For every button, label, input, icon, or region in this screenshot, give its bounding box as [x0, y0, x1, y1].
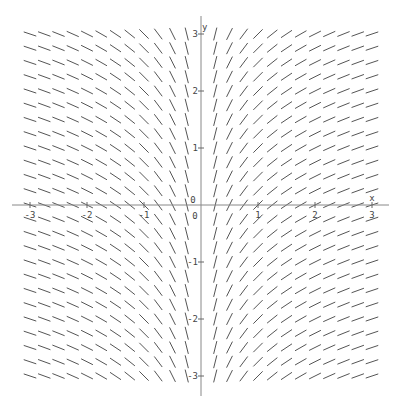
slope-segment — [140, 286, 149, 295]
slope-segment — [96, 373, 107, 379]
slope-segment — [324, 88, 335, 93]
slope-segment — [240, 86, 247, 96]
slope-segment — [366, 75, 378, 79]
slope-segment — [125, 87, 135, 95]
slope-segment — [227, 43, 233, 54]
slope-segment — [81, 31, 92, 37]
slope-segment — [67, 131, 78, 136]
slope-segment — [53, 131, 65, 136]
slope-segment — [96, 259, 107, 265]
slope-segment — [240, 314, 247, 324]
slope-segment — [38, 189, 50, 193]
slope-segment — [281, 73, 291, 80]
slope-segment — [110, 301, 120, 308]
slope-segment — [352, 345, 364, 349]
slope-segment — [81, 60, 92, 66]
slope-segment — [366, 360, 378, 364]
slope-segment — [170, 100, 176, 111]
slope-segment — [267, 158, 277, 166]
slope-segment — [140, 186, 149, 195]
slope-segment — [125, 258, 135, 266]
slope-segment — [254, 315, 263, 324]
slope-segment — [24, 331, 36, 335]
slope-segment — [352, 174, 364, 178]
slope-segment — [38, 217, 50, 221]
slope-segment — [352, 117, 364, 121]
slope-segment — [338, 302, 350, 307]
slope-segment — [295, 273, 306, 279]
slope-segment — [96, 116, 107, 122]
slope-segment — [170, 356, 176, 367]
slope-segment — [338, 345, 350, 350]
slope-segment — [338, 60, 350, 65]
slope-segment — [214, 42, 217, 54]
slope-segment — [214, 341, 217, 353]
slope-segment — [267, 329, 277, 337]
slope-segment — [366, 346, 378, 350]
slope-segment — [185, 71, 188, 83]
slope-segment — [338, 188, 350, 193]
slope-segment — [240, 172, 247, 182]
slope-segment — [254, 300, 263, 309]
slope-segment — [309, 316, 320, 322]
slope-segment — [352, 331, 364, 335]
slope-segment — [254, 329, 263, 338]
slope-segment — [254, 58, 263, 67]
slope-segment — [38, 89, 50, 93]
slope-segment — [67, 117, 78, 122]
slope-segment — [155, 286, 162, 296]
slope-segment — [67, 259, 78, 264]
slope-segment — [281, 187, 291, 194]
slope-segment — [140, 243, 149, 252]
slope-segment — [214, 213, 217, 225]
slope-segment — [214, 71, 217, 83]
slope-segment — [38, 288, 50, 292]
slope-segment — [96, 245, 107, 251]
slope-segment — [67, 345, 78, 350]
slope-segment — [338, 231, 350, 236]
slope-segment — [352, 274, 364, 278]
slope-segment — [185, 341, 188, 353]
slope-segment — [140, 87, 149, 96]
slope-segment — [240, 115, 247, 125]
slope-segment — [96, 74, 107, 80]
slope-segment — [24, 246, 36, 250]
slope-segment — [140, 300, 149, 309]
slope-segment — [81, 45, 92, 51]
slope-segment — [240, 58, 247, 68]
slope-segment — [53, 274, 65, 279]
slope-segment — [352, 103, 364, 107]
slope-segment — [53, 160, 65, 165]
slope-segment — [67, 373, 78, 378]
slope-segment — [38, 331, 50, 335]
slope-segment — [96, 230, 107, 236]
slope-segment — [366, 89, 378, 93]
slope-segment — [140, 343, 149, 352]
slope-segment — [81, 288, 92, 294]
slope-segment — [295, 74, 306, 80]
slope-segment — [67, 60, 78, 65]
slope-segment — [281, 116, 291, 123]
slope-segment — [185, 213, 188, 225]
x-tick-label: 1 — [255, 210, 260, 220]
slope-segment — [96, 159, 107, 165]
slope-segment — [24, 132, 36, 136]
slope-segment — [110, 273, 120, 280]
slope-segment — [53, 174, 65, 179]
slope-segment — [281, 358, 291, 365]
slope-segment — [254, 272, 263, 281]
slope-segment — [81, 316, 92, 322]
slope-segment — [227, 356, 233, 367]
slope-segment — [267, 358, 277, 366]
slope-segment — [366, 246, 378, 250]
slope-segment — [366, 160, 378, 164]
slope-segment — [281, 244, 291, 251]
slope-segment — [125, 244, 135, 252]
slope-segment — [125, 44, 135, 52]
slope-segment — [267, 116, 277, 124]
slope-segment — [295, 31, 306, 37]
slope-segment — [281, 330, 291, 337]
slope-segment — [352, 303, 364, 307]
slope-segment — [267, 73, 277, 81]
slope-segment — [281, 130, 291, 137]
